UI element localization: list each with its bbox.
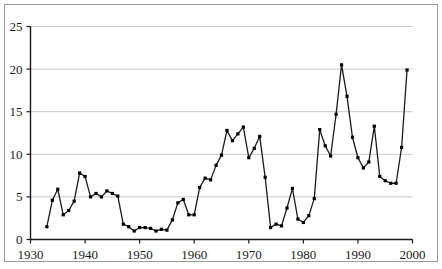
data-point-marker <box>154 229 157 232</box>
data-point-marker <box>62 213 65 216</box>
x-tick-label: 2000 <box>393 248 433 261</box>
data-point-marker <box>133 229 136 232</box>
data-point-marker <box>269 226 272 229</box>
data-point-marker <box>198 186 201 189</box>
y-tick-label: 0 <box>1 233 23 246</box>
data-point-marker <box>160 228 163 231</box>
data-point-marker <box>116 194 119 197</box>
y-axis <box>27 27 31 240</box>
data-point-marker <box>56 188 59 191</box>
x-axis <box>31 240 413 244</box>
data-point-marker <box>138 226 141 229</box>
data-point-marker <box>214 164 217 167</box>
data-point-marker <box>231 139 234 142</box>
data-point-marker <box>187 213 190 216</box>
data-point-marker <box>373 125 376 128</box>
line-chart-plot <box>0 0 442 269</box>
data-point-marker <box>220 154 223 157</box>
chart-figure: 0510152025 19301940195019601970198019902… <box>0 0 442 269</box>
data-point-marker <box>324 144 327 147</box>
data-point-marker <box>122 223 125 226</box>
y-tick-label: 5 <box>1 190 23 203</box>
data-point-marker <box>176 201 179 204</box>
y-tick-label: 25 <box>1 20 23 33</box>
data-point-marker <box>405 68 408 71</box>
data-point-marker <box>225 129 228 132</box>
data-point-marker <box>335 113 338 116</box>
data-point-marker <box>258 135 261 138</box>
x-tick-label: 1940 <box>65 248 105 261</box>
data-point-marker <box>367 160 370 163</box>
data-point-marker <box>100 195 103 198</box>
data-point-marker <box>296 217 299 220</box>
data-point-marker <box>127 225 130 228</box>
data-point-marker <box>209 178 212 181</box>
data-point-marker <box>105 189 108 192</box>
data-point-marker <box>73 200 76 203</box>
data-point-marker <box>165 229 168 232</box>
data-point-marker <box>395 182 398 185</box>
data-point-marker <box>351 136 354 139</box>
data-point-markers <box>45 63 408 232</box>
data-point-marker <box>149 227 152 230</box>
y-tick-label: 10 <box>1 148 23 161</box>
data-point-marker <box>111 192 114 195</box>
data-point-marker <box>280 224 283 227</box>
data-point-marker <box>356 156 359 159</box>
data-point-marker <box>318 128 321 131</box>
x-tick-label: 1930 <box>11 248 51 261</box>
data-point-marker <box>182 198 185 201</box>
data-point-marker <box>51 199 54 202</box>
data-point-marker <box>94 192 97 195</box>
data-point-marker <box>242 125 245 128</box>
data-point-marker <box>236 132 239 135</box>
data-point-marker <box>171 218 174 221</box>
data-point-marker <box>307 214 310 217</box>
x-tick-label: 1980 <box>283 248 323 261</box>
data-point-marker <box>302 221 305 224</box>
data-point-marker <box>362 166 365 169</box>
y-tick-label: 15 <box>1 105 23 118</box>
data-point-marker <box>389 182 392 185</box>
y-tick-label: 20 <box>1 63 23 76</box>
data-point-marker <box>378 175 381 178</box>
data-point-marker <box>247 156 250 159</box>
x-tick-label: 1970 <box>229 248 269 261</box>
data-point-marker <box>144 226 147 229</box>
data-point-marker <box>204 177 207 180</box>
data-point-marker <box>83 175 86 178</box>
data-point-marker <box>67 209 70 212</box>
gridlines <box>31 27 413 197</box>
data-point-marker <box>291 187 294 190</box>
data-point-marker <box>384 179 387 182</box>
data-point-marker <box>400 146 403 149</box>
data-point-marker <box>89 195 92 198</box>
data-point-marker <box>285 206 288 209</box>
data-point-marker <box>274 223 277 226</box>
data-point-marker <box>313 197 316 200</box>
data-point-marker <box>45 225 48 228</box>
x-tick-label: 1990 <box>338 248 378 261</box>
series-line <box>47 65 407 231</box>
data-series-line <box>47 65 407 231</box>
data-point-marker <box>264 176 267 179</box>
data-point-marker <box>345 95 348 98</box>
data-point-marker <box>329 154 332 157</box>
x-tick-label: 1950 <box>120 248 160 261</box>
data-point-marker <box>193 213 196 216</box>
data-point-marker <box>340 63 343 66</box>
x-tick-label: 1960 <box>174 248 214 261</box>
data-point-marker <box>78 171 81 174</box>
data-point-marker <box>253 147 256 150</box>
